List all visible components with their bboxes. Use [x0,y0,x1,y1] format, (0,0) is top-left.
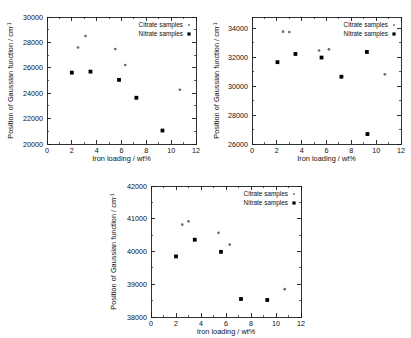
y-tick-label: 41000 [127,214,147,223]
data-point-citrate [84,35,87,38]
legend-label-nitrate: Nitrate samples [244,199,288,207]
data-point-citrate [181,223,184,226]
data-point-nitrate [117,78,121,82]
x-tick-label: 12 [397,146,405,155]
data-point-nitrate [340,75,344,79]
x-tick-label: 2 [70,146,74,155]
data-point-citrate [187,220,190,223]
data-point-nitrate [193,238,197,242]
data-point-nitrate [276,60,280,64]
data-point-citrate [283,288,286,291]
data-point-citrate [328,48,331,51]
y-tick-label: 38000 [127,313,147,322]
y-axis-title: Position of Gaussian function / cm-1 [6,22,15,138]
data-point-nitrate [239,297,243,301]
x-tick-label: 10 [167,146,175,155]
x-tick-label: 2 [275,146,279,155]
data-point-nitrate [366,132,370,136]
x-tick-label: 2 [174,319,178,328]
y-tick-label: 42000 [127,182,147,191]
data-point-nitrate [135,96,139,100]
scatter-plot-a: 024681012200002200024000260002800030000I… [0,0,206,168]
legend-marker-nitrate [392,32,395,35]
chart-panel-a: 024681012200002200024000260002800030000I… [0,0,206,168]
y-tick-label: 40000 [127,247,147,256]
y-tick-label: 28000 [228,111,248,120]
data-point-nitrate [320,56,324,60]
data-point-citrate [288,31,291,34]
y-tick-label: 32000 [228,53,248,62]
data-point-nitrate [265,298,269,302]
y-tick-label: 34000 [228,24,248,33]
legend-label-citrate: Citrate samples [244,190,288,198]
x-tick-label: 0 [45,146,49,155]
legend-marker-citrate [188,24,190,26]
x-tick-label: 0 [149,319,153,328]
y-tick-label: 24000 [23,89,43,98]
data-point-citrate [77,46,80,49]
y-tick-label: 20000 [23,140,43,149]
x-tick-label: 12 [297,319,305,328]
chart-panel-b: 0246810122600028000300003200034000Iron l… [211,0,411,168]
y-axis-title-main: Position of Gaussian function / cm [6,27,15,139]
data-point-citrate [114,48,117,51]
y-axis-title-main: Position of Gaussian function / cm [212,27,221,139]
x-axis-title: Iron loading / wt% [92,154,151,163]
data-point-citrate [124,64,127,67]
y-axis-title-exponent: -1 [6,22,12,27]
y-tick-label: 39000 [127,280,147,289]
legend-marker-nitrate [187,32,190,35]
scatter-plot-c: 0246810123800039000400004100042000Iron l… [104,170,319,338]
legend-marker-citrate [393,24,395,26]
y-axis-title-exponent: -1 [109,193,115,198]
x-tick-label: 0 [250,146,254,155]
legend-label-nitrate: Nitrate samples [139,30,183,38]
legend-label-nitrate: Nitrate samples [344,30,388,38]
y-tick-label: 30000 [228,82,248,91]
data-point-nitrate [365,50,369,54]
y-axis-title: Position of Gaussian function / cm-1 [109,193,118,309]
data-point-citrate [384,73,387,76]
data-point-citrate [179,88,182,91]
data-point-citrate [228,243,231,246]
data-point-nitrate [174,255,178,259]
x-tick-label: 10 [272,319,280,328]
data-point-citrate [282,30,285,33]
data-point-nitrate [161,129,165,133]
x-axis-title: Iron loading / wt% [197,327,256,336]
data-point-nitrate [89,70,93,74]
x-tick-label: 12 [192,146,200,155]
data-point-nitrate [294,52,298,56]
legend-marker-nitrate [292,201,295,204]
data-point-citrate [217,231,220,234]
y-axis-title: Position of Gaussian function / cm-1 [212,22,221,138]
data-point-nitrate [219,250,223,254]
y-tick-label: 26000 [228,140,248,149]
chart-panel-c: 0246810123800039000400004100042000Iron l… [104,170,319,338]
scatter-plot-b: 0246810122600028000300003200034000Iron l… [211,0,411,168]
y-tick-label: 26000 [23,63,43,72]
legend-marker-citrate [293,193,295,195]
y-axis-title-exponent: -1 [212,22,218,27]
y-tick-label: 30000 [23,13,43,22]
x-tick-label: 10 [372,146,380,155]
x-axis-title: Iron loading / wt% [297,154,356,163]
data-point-citrate [318,49,321,52]
y-tick-label: 22000 [23,114,43,123]
legend-label-citrate: Citrate samples [344,21,388,29]
legend-label-citrate: Citrate samples [139,21,183,29]
y-tick-label: 28000 [23,38,43,47]
data-point-nitrate [70,71,74,75]
y-axis-title-main: Position of Gaussian function / cm [109,198,118,310]
